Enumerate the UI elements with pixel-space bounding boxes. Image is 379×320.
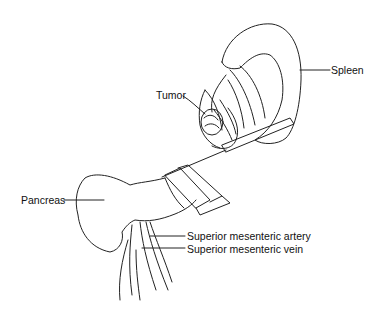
pancreas-shape [76, 175, 196, 252]
label-pancreas: Pancreas [21, 194, 65, 206]
label-superior-mesenteric-artery: Superior mesenteric artery [187, 230, 311, 242]
label-superior-mesenteric-vein: Superior mesenteric vein [187, 243, 303, 255]
label-spleen: Spleen [331, 64, 364, 76]
label-tumor: Tumor [156, 89, 186, 101]
anatomy-illustration [0, 0, 379, 320]
